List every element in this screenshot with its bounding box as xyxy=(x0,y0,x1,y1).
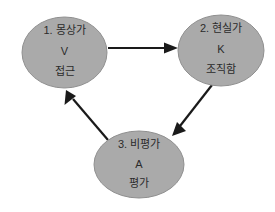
node-realist[interactable]: 2. 현실가 K 조직함 xyxy=(178,15,264,86)
edge-realist-to-critic xyxy=(172,85,212,136)
edge-realist-to-critic-arrowhead xyxy=(172,122,186,136)
edge-realist-to-critic-line xyxy=(180,85,212,126)
edge-critic-to-dreamer-line xyxy=(73,99,108,140)
node-realist-label-line1: 2. 현실가 xyxy=(200,22,242,34)
diagram-canvas: 1. 몽상가 V 접근 2. 현실가 K 조직함 3. 비평가 A 평가 xyxy=(0,0,275,212)
node-realist-label-line2: K xyxy=(217,43,225,55)
edge-dreamer-to-realist xyxy=(108,43,178,54)
node-critic-label-line1: 3. 비평가 xyxy=(118,138,160,150)
node-realist-label-line3: 조직함 xyxy=(206,63,236,75)
node-dreamer-label-line1: 1. 몽상가 xyxy=(43,24,85,36)
node-dreamer-label-line3: 접근 xyxy=(55,65,75,77)
edge-critic-to-dreamer-arrowhead xyxy=(65,90,77,105)
node-critic-label-line2: A xyxy=(135,158,143,170)
edge-critic-to-dreamer xyxy=(65,90,109,140)
edge-dreamer-to-realist-arrowhead xyxy=(164,43,178,54)
node-dreamer-label-line2: V xyxy=(61,45,69,57)
node-dreamer[interactable]: 1. 몽상가 V 접근 xyxy=(22,17,107,88)
node-critic-label-line3: 평가 xyxy=(129,177,149,189)
node-critic[interactable]: 3. 비평가 A 평가 xyxy=(94,131,184,198)
cycle-diagram: 1. 몽상가 V 접근 2. 현실가 K 조직함 3. 비평가 A 평가 xyxy=(0,0,275,212)
